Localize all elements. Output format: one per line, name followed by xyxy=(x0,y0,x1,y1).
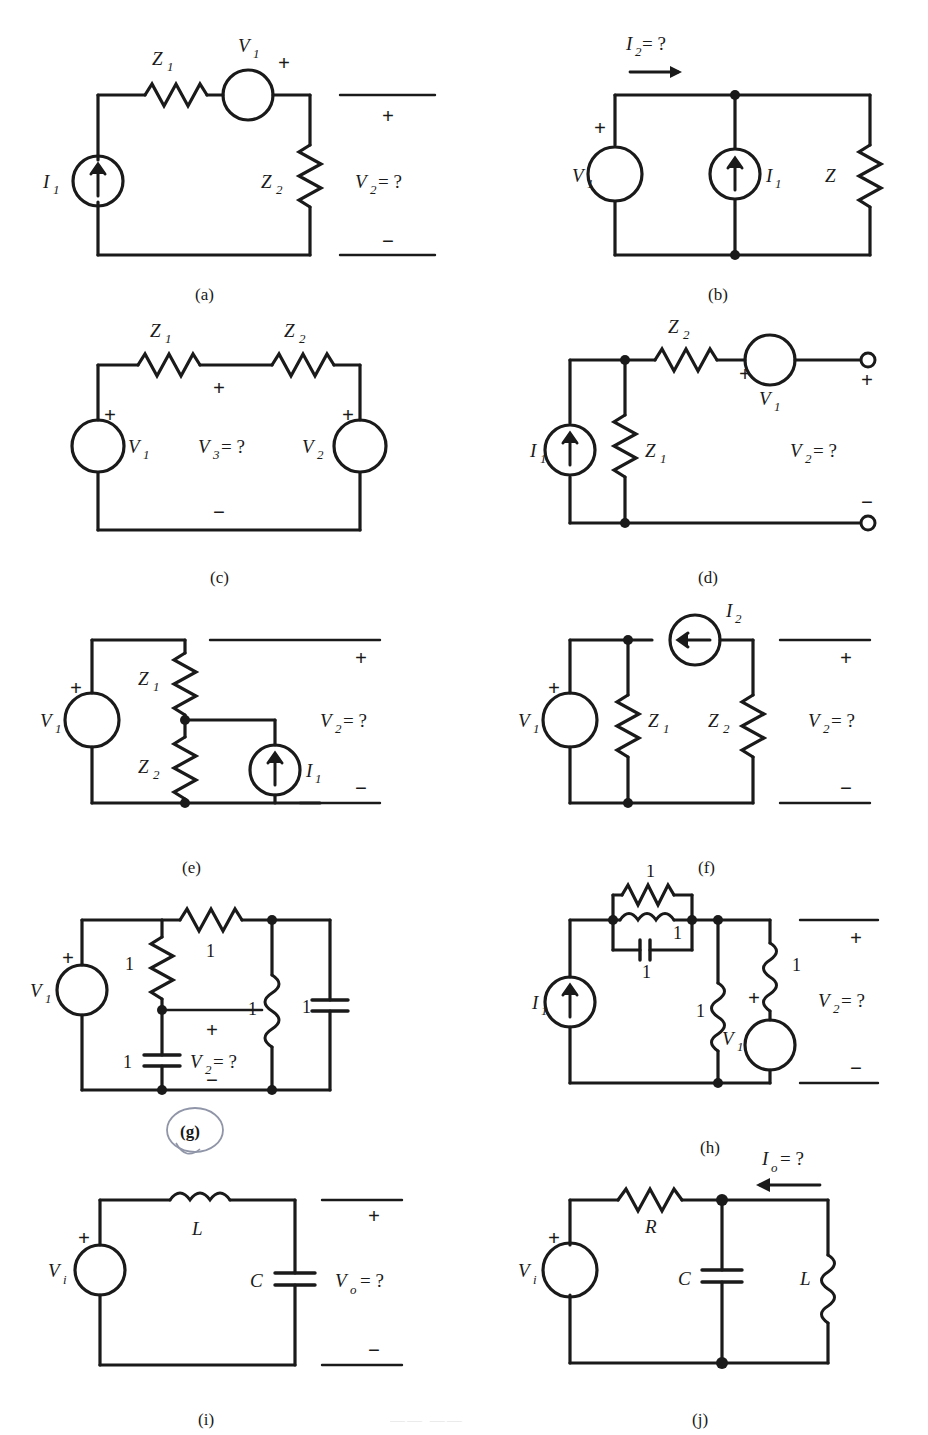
svg-text:1: 1 xyxy=(143,447,150,462)
output-plus: + xyxy=(368,1204,380,1228)
svg-text:2: 2 xyxy=(370,182,377,197)
plus-sign-v1: + xyxy=(104,403,116,427)
svg-text:= ?: = ? xyxy=(213,1051,237,1072)
svg-text:= ?: = ? xyxy=(343,710,367,731)
label-i1: I xyxy=(531,992,540,1013)
terminal-plus: + xyxy=(861,368,873,392)
label-v2: V xyxy=(302,436,316,457)
label-capacitor-c: C xyxy=(250,1270,263,1291)
svg-text:= ?: = ? xyxy=(831,710,855,731)
svg-text:1: 1 xyxy=(165,331,172,346)
label-z2: Z xyxy=(668,316,679,337)
label-v1: V xyxy=(572,165,586,186)
svg-text:2: 2 xyxy=(683,327,690,342)
label-z1: Z xyxy=(645,440,656,461)
value-output-inductor: 1 xyxy=(792,955,801,975)
unknown-j-base: I xyxy=(761,1148,770,1169)
unknown-g-base: V xyxy=(190,1051,204,1072)
label-v1: V xyxy=(722,1028,736,1049)
panel-caption-g: (g) xyxy=(180,1122,200,1141)
label-z1: Z xyxy=(138,668,149,689)
label-v1: V xyxy=(128,436,142,457)
svg-text:2: 2 xyxy=(153,767,160,782)
svg-text:1: 1 xyxy=(587,176,594,191)
output-minus: − xyxy=(850,1056,862,1080)
plus-sign-v1: + xyxy=(548,676,560,700)
unknown-h-base: V xyxy=(818,990,832,1011)
panel-caption-a: (a) xyxy=(195,285,214,304)
value-shunt-inductor: 1 xyxy=(696,1001,705,1021)
svg-text:2: 2 xyxy=(805,451,812,466)
svg-text:1: 1 xyxy=(45,991,52,1006)
svg-text:= ?: = ? xyxy=(813,440,837,461)
circuit-panel-c: Z 1 Z 2 + V 1 + V 2 + − V 3 = ? (c) xyxy=(10,305,450,595)
svg-text:= ?: = ? xyxy=(221,436,245,457)
circuit-panel-d: Z 2 + V 1 + − I 1 Z 1 V 2 = ? (d) xyxy=(470,305,910,595)
svg-text:1: 1 xyxy=(315,771,322,786)
mid-minus: − xyxy=(213,500,225,524)
label-z1: Z xyxy=(150,320,161,341)
mid-plus: + xyxy=(213,376,225,400)
svg-text:2: 2 xyxy=(833,1001,840,1016)
panel-caption-j: (j) xyxy=(692,1410,708,1429)
svg-text:= ?: = ? xyxy=(841,990,865,1011)
value-parallel-inductor: 1 xyxy=(673,923,682,943)
label-z1: Z xyxy=(648,710,659,731)
value-output-capacitor: 1 xyxy=(302,997,311,1017)
label-i1: I xyxy=(305,760,314,781)
plus-sign-v2: + xyxy=(342,403,354,427)
svg-text:2: 2 xyxy=(317,447,324,462)
svg-text:1: 1 xyxy=(660,451,667,466)
svg-text:1: 1 xyxy=(775,176,782,191)
svg-text:2: 2 xyxy=(723,721,730,736)
svg-text:2: 2 xyxy=(735,611,742,626)
label-i2: I xyxy=(625,33,634,54)
value-shunt-capacitor: 1 xyxy=(123,1052,132,1072)
svg-text:1: 1 xyxy=(153,679,160,694)
circuit-panel-g: 1 1 1 1 1 + V 1 + − V 2 = ? (g) xyxy=(10,865,450,1165)
svg-text:1: 1 xyxy=(533,721,540,736)
label-z2: Z xyxy=(261,171,272,192)
label-vi-base: V xyxy=(48,1260,62,1281)
output-minus: − xyxy=(840,776,852,800)
output-plus: + xyxy=(206,1018,218,1042)
svg-text:o: o xyxy=(350,1282,357,1297)
label-z: Z xyxy=(825,165,836,186)
svg-text:= ?: = ? xyxy=(642,33,666,54)
cut-off-figure-caption: —— —— xyxy=(390,1412,570,1432)
value-series-resistor: 1 xyxy=(206,941,215,961)
unknown-d-base: V xyxy=(790,440,804,461)
panel-caption-b: (b) xyxy=(708,285,728,304)
svg-text:2: 2 xyxy=(299,331,306,346)
label-vi-base: V xyxy=(518,1260,532,1281)
circuit-panel-j: R + V i C L I o = ? (j) xyxy=(470,1145,910,1435)
unknown-c-base: V xyxy=(198,436,212,457)
label-i1: I xyxy=(42,171,51,192)
label-z1: Z xyxy=(152,48,163,69)
label-v1: V xyxy=(238,35,252,56)
plus-sign-v1: + xyxy=(70,676,82,700)
value-shunt-resistor: 1 xyxy=(125,954,134,974)
value-parallel-capacitor: 1 xyxy=(642,962,651,982)
svg-text:3: 3 xyxy=(212,447,220,462)
svg-text:2: 2 xyxy=(635,44,642,59)
output-plus: + xyxy=(850,926,862,950)
label-i2: I xyxy=(725,600,734,621)
label-z2: Z xyxy=(284,320,295,341)
circuit-panel-h: 1 1 1 1 1 I 1 + V 1 + − V 2 = ? (h) xyxy=(470,865,910,1165)
output-minus: − xyxy=(355,776,367,800)
plus-sign-v1: + xyxy=(739,362,751,386)
label-capacitor-c: C xyxy=(678,1268,691,1289)
svg-text:= ?: = ? xyxy=(780,1148,804,1169)
svg-text:2: 2 xyxy=(823,721,830,736)
output-plus: + xyxy=(355,646,367,670)
circuit-panel-i: L + V i C + − V o = ? (i) xyxy=(10,1145,450,1435)
unknown-a-base: V xyxy=(355,171,369,192)
label-z2: Z xyxy=(708,710,719,731)
svg-text:1: 1 xyxy=(55,721,62,736)
value-shunt-inductor: 1 xyxy=(248,999,257,1019)
svg-text:1: 1 xyxy=(167,59,174,74)
panel-caption-i: (i) xyxy=(198,1410,214,1429)
svg-text:i: i xyxy=(533,1272,537,1287)
unknown-f-base: V xyxy=(808,710,822,731)
